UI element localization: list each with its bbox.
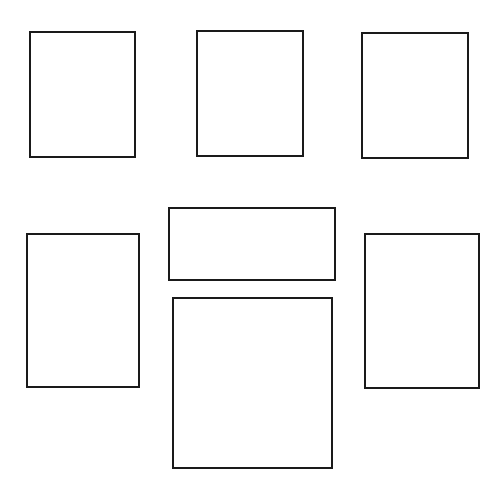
box-top-left — [29, 31, 136, 158]
box-middle-left — [26, 233, 140, 388]
box-middle-right — [364, 233, 480, 389]
box-top-center — [196, 30, 304, 157]
box-middle-center — [168, 207, 336, 281]
box-top-right — [361, 32, 469, 159]
box-bottom-center — [172, 297, 333, 469]
